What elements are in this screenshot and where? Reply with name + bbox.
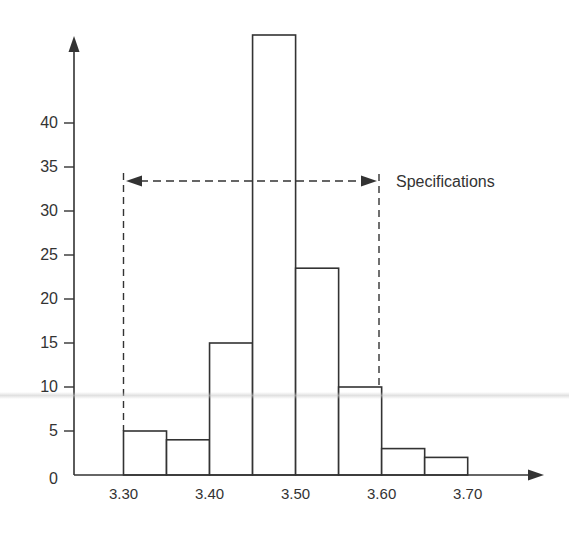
x-axis-arrow-icon	[528, 470, 544, 481]
spec-left-arrowhead-icon	[126, 176, 142, 187]
y-tick-label: 40	[18, 115, 58, 131]
x-tick-label: 3.40	[180, 486, 240, 502]
histogram-bars	[124, 35, 468, 475]
x-tick-label: 3.30	[94, 486, 154, 502]
histogram-bar	[124, 431, 167, 475]
y-ticks	[64, 123, 74, 431]
specifications-label: Specifications	[396, 173, 495, 191]
y-tick-label: 5	[18, 423, 58, 439]
y-tick-label: 35	[18, 159, 58, 175]
histogram-bar	[296, 268, 339, 475]
histogram-bar	[425, 457, 468, 475]
histogram-bar	[210, 343, 253, 475]
histogram-chart	[0, 0, 569, 537]
x-tick-label: 3.70	[438, 486, 498, 502]
y-tick-label: 15	[18, 335, 58, 351]
x-tick-label: 3.60	[352, 486, 412, 502]
histogram-bar	[167, 440, 210, 475]
histogram-bar	[253, 35, 296, 475]
y-tick-label: 30	[18, 203, 58, 219]
histogram-bar	[382, 449, 425, 475]
y-tick-label: 20	[18, 291, 58, 307]
y-axis-arrow-icon	[69, 36, 80, 52]
spec-right-arrowhead-icon	[361, 176, 377, 187]
y-tick-label: 0	[18, 471, 58, 487]
histogram-bar	[339, 387, 382, 475]
y-tick-label: 10	[18, 379, 58, 395]
x-tick-label: 3.50	[266, 486, 326, 502]
y-tick-label: 25	[18, 247, 58, 263]
